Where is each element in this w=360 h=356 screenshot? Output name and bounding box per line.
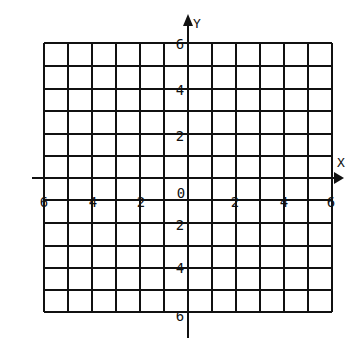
x-axis-label: X	[337, 155, 345, 170]
x-tick-neg4: 4	[89, 194, 97, 210]
y-tick-2: 2	[176, 128, 184, 144]
y-tick-neg2: 2	[176, 217, 184, 233]
y-tick-neg4: 4	[176, 260, 184, 276]
y-tick-neg6: 6	[176, 308, 184, 324]
y-tick-labels: 6 4 2 2 4 6	[176, 36, 184, 324]
x-tick-0: 0	[177, 185, 185, 201]
x-tick-6: 6	[327, 194, 335, 210]
x-tick-2: 2	[231, 194, 239, 210]
x-tick-4: 4	[280, 194, 288, 210]
x-tick-neg6: 6	[40, 194, 48, 210]
x-axis-arrow-icon	[334, 172, 344, 184]
y-tick-6: 6	[176, 36, 184, 52]
y-axis-label: Y	[193, 16, 201, 31]
y-axis-arrow-icon	[183, 14, 193, 26]
coordinate-grid-diagram: X Y 6 4 2 0 2 4 6 6 4 2 2 4 6	[0, 0, 360, 356]
y-tick-4: 4	[176, 82, 184, 98]
x-tick-neg2: 2	[137, 194, 145, 210]
